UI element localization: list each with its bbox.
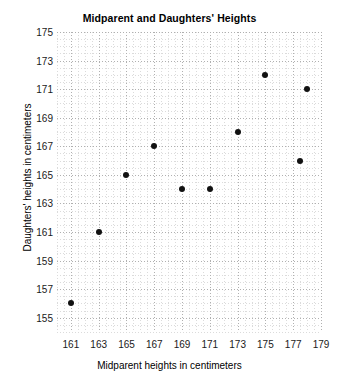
x-minor-gridline (245, 32, 246, 332)
x-tick-label: 179 (301, 339, 339, 350)
y-minor-gridline (57, 161, 321, 162)
x-major-gridline (126, 32, 127, 332)
x-minor-gridline (78, 32, 79, 332)
x-minor-gridline (258, 32, 259, 332)
x-major-gridline (99, 32, 100, 332)
x-minor-gridline (196, 32, 197, 332)
x-minor-gridline (85, 32, 86, 332)
x-minor-gridline (307, 32, 308, 332)
y-minor-gridline (57, 39, 321, 40)
x-minor-gridline (140, 32, 141, 332)
x-major-gridline (154, 32, 155, 332)
y-major-gridline (57, 146, 321, 147)
x-major-gridline (321, 32, 322, 332)
x-major-gridline (71, 32, 72, 332)
y-minor-gridline (57, 68, 321, 69)
y-minor-gridline (57, 275, 321, 276)
y-minor-gridline (57, 153, 321, 154)
x-minor-gridline (161, 32, 162, 332)
y-tick-label: 175 (5, 27, 53, 38)
y-minor-gridline (57, 246, 321, 247)
data-point (207, 186, 213, 192)
y-minor-gridline (57, 125, 321, 126)
y-minor-gridline (57, 82, 321, 83)
y-minor-gridline (57, 218, 321, 219)
y-major-gridline (57, 61, 321, 62)
x-major-gridline (293, 32, 294, 332)
data-point (297, 158, 303, 164)
x-axis-title: Midparent heights in centimeters (0, 360, 339, 371)
y-minor-gridline (57, 211, 321, 212)
y-minor-gridline (57, 139, 321, 140)
x-minor-gridline (168, 32, 169, 332)
x-minor-gridline (64, 32, 65, 332)
y-major-gridline (57, 289, 321, 290)
y-minor-gridline (57, 111, 321, 112)
y-minor-gridline (57, 196, 321, 197)
y-minor-gridline (57, 75, 321, 76)
x-minor-gridline (175, 32, 176, 332)
y-minor-gridline (57, 311, 321, 312)
data-point (235, 129, 241, 135)
y-major-gridline (57, 118, 321, 119)
y-minor-gridline (57, 132, 321, 133)
x-minor-gridline (106, 32, 107, 332)
x-minor-gridline (57, 32, 58, 332)
y-minor-gridline (57, 253, 321, 254)
x-minor-gridline (279, 32, 280, 332)
x-minor-gridline (224, 32, 225, 332)
x-minor-gridline (314, 32, 315, 332)
x-minor-gridline (113, 32, 114, 332)
y-minor-gridline (57, 53, 321, 54)
y-minor-gridline (57, 268, 321, 269)
data-point (151, 143, 157, 149)
y-major-gridline (57, 318, 321, 319)
minor-gridlines (57, 32, 321, 332)
y-minor-gridline (57, 325, 321, 326)
x-minor-gridline (189, 32, 190, 332)
x-axis-tick-labels: 161163165167169171173175177179 (57, 339, 321, 355)
x-minor-gridline (286, 32, 287, 332)
y-minor-gridline (57, 189, 321, 190)
x-minor-gridline (231, 32, 232, 332)
x-minor-gridline (92, 32, 93, 332)
y-major-gridline (57, 203, 321, 204)
y-minor-gridline (57, 282, 321, 283)
chart-title: Midparent and Daughters' Heights (0, 12, 339, 24)
x-minor-gridline (203, 32, 204, 332)
y-minor-gridline (57, 239, 321, 240)
y-major-gridline (57, 89, 321, 90)
y-minor-gridline (57, 103, 321, 104)
x-minor-gridline (147, 32, 148, 332)
x-minor-gridline (252, 32, 253, 332)
x-minor-gridline (120, 32, 121, 332)
data-point (68, 300, 74, 306)
major-gridlines (57, 32, 321, 332)
y-major-gridline (57, 261, 321, 262)
y-minor-gridline (57, 332, 321, 333)
y-axis-title: Daughters' heights in centimeters (22, 58, 33, 298)
y-axis-title-wrapper: Daughters' heights in centimeters (0, 0, 1, 1)
y-minor-gridline (57, 46, 321, 47)
plot-area (57, 32, 321, 332)
y-minor-gridline (57, 303, 321, 304)
x-minor-gridline (300, 32, 301, 332)
y-major-gridline (57, 32, 321, 33)
x-minor-gridline (217, 32, 218, 332)
y-minor-gridline (57, 168, 321, 169)
scatter-chart: Midparent and Daughters' Heights 1551571… (0, 0, 339, 386)
y-major-gridline (57, 175, 321, 176)
y-minor-gridline (57, 182, 321, 183)
y-minor-gridline (57, 225, 321, 226)
y-minor-gridline (57, 96, 321, 97)
data-point (179, 186, 185, 192)
x-major-gridline (210, 32, 211, 332)
y-tick-label: 155 (5, 312, 53, 323)
x-minor-gridline (133, 32, 134, 332)
y-minor-gridline (57, 296, 321, 297)
data-point (123, 172, 129, 178)
x-minor-gridline (272, 32, 273, 332)
data-point (262, 72, 268, 78)
data-point (96, 229, 102, 235)
data-point (304, 86, 310, 92)
